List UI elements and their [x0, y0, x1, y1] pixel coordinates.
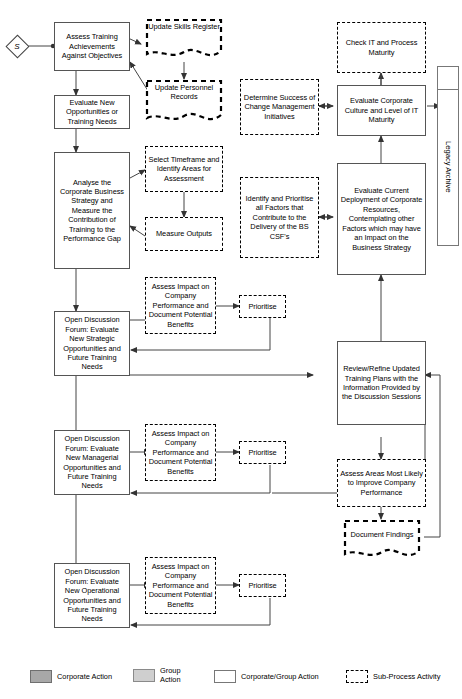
node-assess-areas-improve[interactable]: Assess Areas Most Likely to Improve Comp…: [337, 459, 426, 507]
legend-swatch-group-action: [133, 669, 155, 682]
node-label: Review/Refine Updated Training Plans wit…: [340, 364, 423, 402]
node-prioritise-operational[interactable]: Prioritise: [239, 574, 286, 597]
legend-swatch-sub-process-activity: [346, 670, 368, 683]
node-assess-training[interactable]: Assess Training Achievements Against Obj…: [54, 22, 130, 71]
node-label: Evaluate Corporate Culture and Level of …: [340, 96, 423, 124]
node-label: Document Findings: [343, 530, 421, 539]
legend-item-group-action: Group Action: [133, 666, 181, 684]
node-label: Assess Impact on Company Performance and…: [148, 429, 213, 476]
node-select-timeframe[interactable]: Select Timeframe and Identify Areas for …: [145, 146, 223, 192]
archive-label-wrap: Legacy Archive: [438, 89, 458, 245]
node-label: Open Discussion Forum: Evaluate New Mana…: [57, 434, 127, 490]
node-label: Assess Impact on Company Performance and…: [148, 282, 213, 329]
node-label: Evaluate New Opportunities or Training N…: [57, 98, 127, 126]
node-label: Check IT and Process Maturity: [340, 38, 423, 57]
node-label: Prioritise: [248, 448, 276, 457]
node-label: Update Skills Register: [145, 22, 223, 31]
node-label: Update Personnel Records: [145, 83, 223, 102]
legend-item-corporate-action: Corporate Action: [30, 670, 112, 683]
node-forum-strategic[interactable]: Open Discussion Forum: Evaluate New Stra…: [54, 311, 130, 376]
node-label: Open Discussion Forum: Evaluate New Stra…: [57, 315, 127, 371]
node-document-findings[interactable]: Document Findings: [343, 519, 421, 563]
node-evaluate-corporate-culture[interactable]: Evaluate Corporate Culture and Level of …: [337, 85, 426, 136]
node-assess-impact-operational[interactable]: Assess Impact on Company Performance and…: [145, 557, 216, 614]
legend-item-sub-process-activity: Sub-Process Activity: [346, 670, 440, 683]
legend-label: Group Action: [160, 666, 181, 684]
legend: Corporate Action Group Action Corporate/…: [0, 660, 462, 694]
document-shape-icon: [343, 519, 421, 563]
start-node-label: S: [6, 35, 28, 57]
node-measure-outputs[interactable]: Measure Outputs: [145, 217, 223, 251]
node-label: Assess Impact on Company Performance and…: [148, 562, 213, 609]
node-label: Open Discussion Forum: Evaluate New Oper…: [57, 567, 127, 623]
legend-swatch-corporate-action: [30, 670, 52, 683]
legacy-archive-container[interactable]: Legacy Archive: [437, 66, 459, 246]
legend-swatch-corporate-group-action: [214, 670, 236, 683]
node-label: Measure Outputs: [156, 229, 212, 238]
node-label: Prioritise: [248, 581, 276, 590]
node-identify-prioritise-factors[interactable]: Identify and Prioritise all Factors that…: [240, 177, 319, 258]
node-determine-success[interactable]: Determine Success of Change Management I…: [240, 79, 319, 135]
flowchart-canvas: S Assess Training Achievements Against O…: [0, 0, 462, 699]
node-label: Determine Success of Change Management I…: [243, 93, 316, 121]
node-evaluate-new-opps[interactable]: Evaluate New Opportunities or Training N…: [54, 95, 130, 129]
legend-item-corporate-group-action: Corporate/Group Action: [214, 670, 319, 683]
node-label: Evaluate Current Deployment of Corporate…: [340, 186, 423, 252]
legacy-archive-label: Legacy Archive: [444, 141, 453, 193]
node-evaluate-current-deployment[interactable]: Evaluate Current Deployment of Corporate…: [337, 163, 426, 275]
legend-label: Corporate/Group Action: [241, 672, 319, 681]
archive-cap: [438, 67, 458, 90]
node-check-it-maturity[interactable]: Check IT and Process Maturity: [337, 22, 426, 73]
node-label: Analyse the Corporate Business Strategy …: [57, 178, 127, 244]
node-analyse-corporate-strategy[interactable]: Analyse the Corporate Business Strategy …: [54, 152, 130, 269]
node-prioritise-strategic[interactable]: Prioritise: [239, 295, 286, 318]
node-assess-impact-managerial[interactable]: Assess Impact on Company Performance and…: [145, 424, 216, 481]
legend-label: Corporate Action: [57, 672, 112, 681]
node-update-personnel-records[interactable]: Update Personnel Records: [145, 79, 223, 127]
node-update-skills-register[interactable]: Update Skills Register: [145, 18, 223, 62]
node-forum-operational[interactable]: Open Discussion Forum: Evaluate New Oper…: [54, 563, 130, 628]
node-label: Select Timeframe and Identify Areas for …: [148, 155, 220, 183]
node-label: Identify and Prioritise all Factors that…: [243, 194, 316, 241]
start-node[interactable]: S: [6, 35, 28, 57]
node-forum-managerial[interactable]: Open Discussion Forum: Evaluate New Mana…: [54, 430, 130, 495]
node-label: Assess Areas Most Likely to Improve Comp…: [340, 469, 423, 497]
node-prioritise-managerial[interactable]: Prioritise: [239, 441, 286, 464]
node-assess-impact-strategic[interactable]: Assess Impact on Company Performance and…: [145, 277, 216, 334]
node-review-refine-plans[interactable]: Review/Refine Updated Training Plans wit…: [337, 341, 426, 425]
node-label: Assess Training Achievements Against Obj…: [57, 32, 127, 60]
node-label: Prioritise: [248, 302, 276, 311]
legend-label: Sub-Process Activity: [373, 672, 440, 681]
